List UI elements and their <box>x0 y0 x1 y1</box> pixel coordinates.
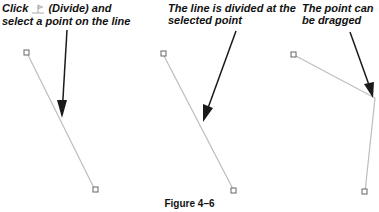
endpoint-handle[interactable] <box>93 187 98 192</box>
panel-3 <box>291 32 375 194</box>
endpoint-handle[interactable] <box>24 50 29 55</box>
endpoint-handle[interactable] <box>362 189 367 194</box>
line-segment <box>27 53 95 190</box>
panel-2 <box>161 31 236 193</box>
arrow-head <box>364 82 374 98</box>
figure-label: Figure 4–6 <box>0 198 379 209</box>
arrow-pointer <box>208 31 236 108</box>
arrow-head <box>203 104 213 122</box>
line-segment <box>163 54 234 191</box>
line-segment <box>294 55 375 192</box>
panel-1 <box>24 30 98 192</box>
endpoint-handle[interactable] <box>291 52 296 57</box>
endpoint-handle[interactable] <box>231 188 236 193</box>
endpoint-handle[interactable] <box>161 51 166 56</box>
divide-diagram <box>0 0 379 212</box>
arrow-pointer <box>350 32 369 85</box>
